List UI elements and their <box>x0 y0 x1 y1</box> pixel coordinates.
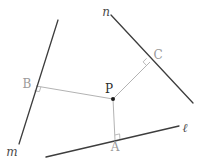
geometry-diagram: mnℓBCAP <box>0 0 204 167</box>
point-P-label: P <box>105 82 113 96</box>
point-P-dot <box>111 97 115 101</box>
line-n-label: n <box>102 5 110 19</box>
diagram-canvas: mnℓBCAP <box>0 0 204 167</box>
foot-A-label: A <box>110 140 120 154</box>
perpendicular-segment-PA <box>113 99 115 140</box>
line-l-label: ℓ <box>183 121 188 135</box>
foot-B-label: B <box>23 77 32 91</box>
right-angle-marker-A <box>115 134 120 139</box>
right-angle-marker-C <box>143 58 147 65</box>
foot-C-label: C <box>153 48 162 62</box>
perpendicular-segment-PB <box>36 86 113 99</box>
line-n <box>111 15 193 103</box>
perpendicular-segment-PC <box>113 62 150 99</box>
line-m-label: m <box>6 145 17 159</box>
